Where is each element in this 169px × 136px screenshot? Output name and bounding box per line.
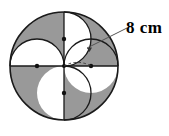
- dimension-label: 8 cm: [126, 19, 162, 36]
- dot-top: [62, 37, 66, 41]
- geometry-figure: 8 cm: [0, 0, 169, 136]
- dot-center: [62, 64, 66, 68]
- dot-bottom: [62, 91, 66, 95]
- dot-left: [35, 64, 39, 68]
- dot-right: [89, 64, 93, 68]
